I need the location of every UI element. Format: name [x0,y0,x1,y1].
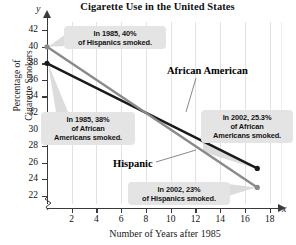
callout-line-2: of African [45,124,131,133]
y-tick-label: 24 [16,173,38,183]
x-tick-label: 10 [161,214,181,224]
callout-line-2: of Hispanics smoked. [132,194,226,203]
x-tick-label: 16 [235,214,255,224]
x-tick-label: 4 [86,214,106,224]
x-tick-mark [245,208,246,213]
y-tick-mark [42,163,47,164]
x-axis-arrowhead [278,204,286,212]
chart-title: Cigarette Use in the United States [55,1,260,12]
y-tick-label: 36 [16,74,38,84]
callout-line-3: Americans smoked. [45,133,131,142]
y-tick-mark [42,80,47,81]
y-axis-arrowhead [43,10,51,18]
callout-line-3: Americans smoked. [205,131,289,140]
callout-hispanic-2002: In 2002, 23% of Hispanics smoked. [128,182,230,205]
callout-hispanic-1985: In 1985, 40% of Hispanics smoked. [64,26,166,49]
gridline-vertical [146,22,147,204]
y-tick-label: 40 [16,41,38,51]
y-tick-mark [42,179,47,180]
y-tick-mark [42,146,47,147]
x-tick-label: 12 [185,214,205,224]
y-tick-mark [42,196,47,197]
x-tick-mark [171,208,172,213]
callout-african-american-2002: In 2002, 25.3% of African Americans smok… [201,110,293,143]
y-tick-label: 30 [16,124,38,134]
x-tick-mark [195,208,196,213]
x-tick-mark [72,208,73,213]
x-tick-label: 2 [62,214,82,224]
y-axis-letter: y [36,3,40,14]
callout-line-2: of African [205,122,289,131]
y-tick-mark [42,96,47,97]
y-tick-label: 22 [16,190,38,200]
series-label-hispanic: Hispanic [113,158,153,169]
y-tick-mark [42,47,47,48]
x-tick-mark [96,208,97,213]
y-tick-mark [42,63,47,64]
callout-line-1: In 1985, 38% [45,115,131,124]
gridline-vertical [171,22,172,204]
y-tick-mark [42,30,47,31]
x-tick-mark [146,208,147,213]
callout-line-1: In 2002, 25.3% [205,113,289,122]
y-tick-label: 42 [16,24,38,34]
y-tick-label: 34 [16,90,38,100]
x-tick-label: 14 [210,214,230,224]
y-axis-line [47,16,48,204]
x-tick-mark [220,208,221,213]
y-tick-label: 32 [16,107,38,117]
x-tick-mark [121,208,122,213]
callout-line-1: In 2002, 23% [132,185,226,194]
y-tick-label: 28 [16,140,38,150]
y-tick-label: 26 [16,157,38,167]
x-tick-label: 6 [111,214,131,224]
callout-line-2: of Hispanics smoked. [68,38,162,47]
axis-break-symbol [42,196,54,210]
callout-african-american-1985: In 1985, 38% of African Americans smoked… [41,112,135,145]
x-tick-mark [270,208,271,213]
series-label-african-american: African American [167,65,248,76]
callout-line-1: In 1985, 40% [68,29,162,38]
x-axis-title: Number of Years after 1985 [50,228,280,239]
chart-figure: Cigarette Use in the United States y x P… [0,0,296,245]
y-tick-label: 38 [16,57,38,67]
x-tick-label: 8 [136,214,156,224]
gridline-vertical [195,22,196,204]
x-tick-label: 18 [260,214,280,224]
